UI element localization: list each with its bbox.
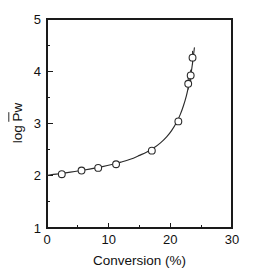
y-axis-title-pbar: P — [10, 112, 25, 121]
x-tick-label: 20 — [163, 232, 177, 247]
data-point-marker — [187, 72, 194, 79]
x-tick-label: 10 — [101, 232, 115, 247]
chart-figure: 0102030 12345 Conversion (%) log Pw — [0, 0, 260, 272]
y-tick-label: 4 — [34, 64, 41, 79]
data-point-marker — [148, 147, 155, 154]
data-point-marker — [78, 167, 85, 174]
y-axis-title-w: w — [10, 102, 25, 113]
scatter-plot-svg: 0102030 12345 Conversion (%) log Pw — [0, 0, 260, 272]
y-axis-title: log Pw — [9, 102, 25, 143]
x-axis-title: Conversion (%) — [93, 253, 186, 268]
data-point-marker — [189, 54, 196, 61]
data-point-marker — [95, 165, 102, 172]
data-point-marker — [58, 171, 65, 178]
y-tick-label: 1 — [34, 221, 41, 236]
data-point-marker — [185, 80, 192, 87]
y-tick-label: 5 — [34, 12, 41, 27]
x-tick-label: 0 — [43, 232, 50, 247]
y-axis-title-prefix: log — [10, 121, 25, 143]
x-tick-label: 30 — [225, 232, 239, 247]
y-axis-title-text: log Pw — [10, 102, 25, 143]
y-tick-label: 2 — [34, 168, 41, 183]
y-tick-label: 3 — [34, 116, 41, 131]
data-point-marker — [175, 118, 182, 125]
data-point-marker — [113, 161, 120, 168]
